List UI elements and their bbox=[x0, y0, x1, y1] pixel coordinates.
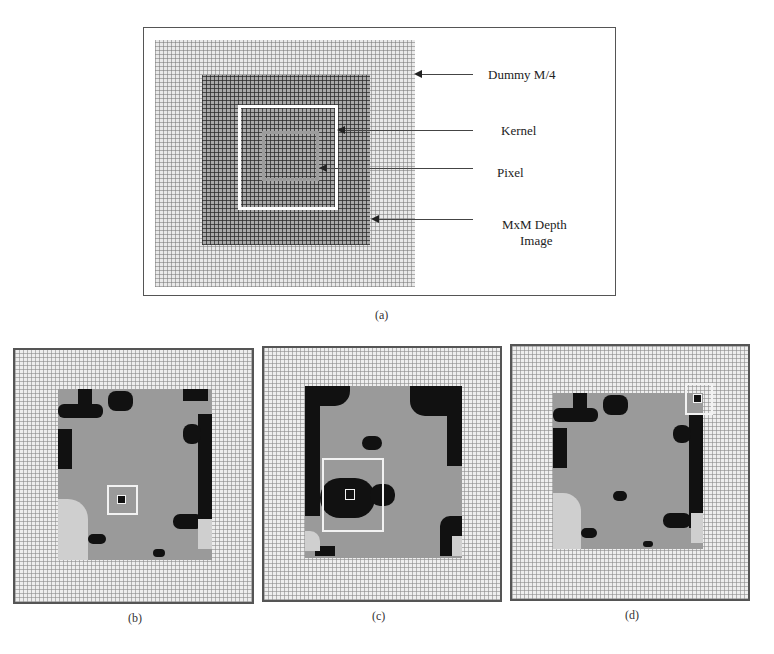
panel-d-depth-image bbox=[553, 393, 703, 549]
depth-arrow-line bbox=[377, 219, 473, 220]
label-dummy: Dummy M/4 bbox=[488, 67, 556, 83]
caption-a: (a) bbox=[375, 308, 388, 323]
caption-c: (c) bbox=[372, 609, 385, 624]
label-kernel: Kernel bbox=[501, 123, 536, 139]
depth-arrow-head-icon bbox=[371, 215, 379, 223]
caption-b: (b) bbox=[128, 611, 142, 626]
panel-d-pixel-square bbox=[694, 395, 701, 402]
label-depth-line2: Image bbox=[520, 233, 552, 249]
label-depth-line1: MxM Depth bbox=[502, 217, 567, 233]
panel-c-pixel-square bbox=[345, 489, 355, 500]
pixel-square bbox=[262, 131, 319, 181]
caption-d: (d) bbox=[625, 608, 639, 623]
dummy-arrow-line bbox=[420, 74, 473, 75]
kernel-arrow-line bbox=[343, 130, 473, 131]
panel-b-depth-image bbox=[58, 389, 212, 560]
label-pixel: Pixel bbox=[497, 165, 524, 181]
kernel-arrow-head-icon bbox=[337, 126, 345, 134]
dummy-arrow-head-icon bbox=[414, 70, 422, 78]
pixel-arrow-line bbox=[325, 168, 473, 169]
panel-b-pixel-square bbox=[118, 496, 125, 503]
pixel-arrow-head-icon bbox=[319, 164, 327, 172]
